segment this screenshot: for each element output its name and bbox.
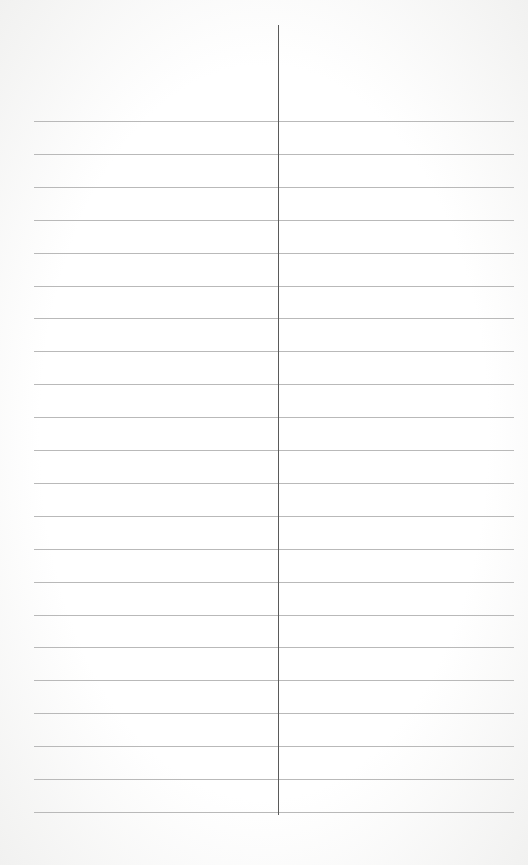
ruled-line (34, 483, 514, 484)
ruled-line (34, 516, 514, 517)
column-divider (278, 25, 279, 815)
ruled-line (34, 450, 514, 451)
ruled-line (34, 647, 514, 648)
ruled-line (34, 351, 514, 352)
ruled-line (34, 680, 514, 681)
ruled-line (34, 582, 514, 583)
ruled-line (34, 154, 514, 155)
ruled-line (34, 286, 514, 287)
ruled-line (34, 121, 514, 122)
ruled-line (34, 615, 514, 616)
ruled-line (34, 220, 514, 221)
ruled-line (34, 253, 514, 254)
ruled-line (34, 318, 514, 319)
ruled-line (34, 549, 514, 550)
ruled-line (34, 779, 514, 780)
ruled-line (34, 417, 514, 418)
ruled-line (34, 187, 514, 188)
ruled-line (34, 384, 514, 385)
ruled-line (34, 812, 514, 813)
lined-paper-sheet (0, 0, 528, 865)
ruled-line (34, 713, 514, 714)
ruled-line (34, 746, 514, 747)
